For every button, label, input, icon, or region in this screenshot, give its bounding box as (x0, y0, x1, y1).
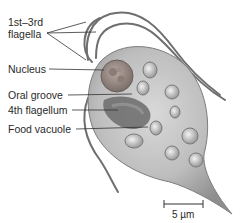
label-oral-groove: Oral groove (8, 89, 63, 101)
protozoan-diagram: 1st–3rd flagella Nucleus Oral groove 4th… (0, 0, 244, 223)
label-flagella: 1st–3rd flagella (8, 16, 43, 40)
label-fourth-flagellum: 4th flagellum (8, 104, 68, 116)
label-flagella-line2: flagella (8, 28, 43, 40)
label-flagella-line1: 1st–3rd (8, 16, 43, 28)
label-food-vacuole: Food vacuole (8, 123, 71, 135)
nucleus (101, 60, 133, 92)
scale-bar (164, 200, 203, 208)
label-nucleus: Nucleus (8, 63, 46, 75)
scale-bar-label: 5 µm (172, 209, 194, 220)
